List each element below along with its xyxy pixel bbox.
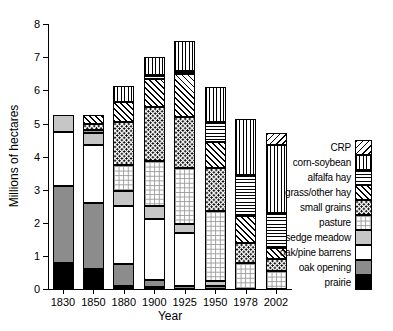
legend-swatch-grass-other-hay — [355, 185, 372, 200]
x-axis — [48, 289, 292, 290]
segment-sedge-meadow — [144, 206, 165, 219]
segment-prairie — [83, 269, 104, 289]
legend-swatch-pasture — [355, 215, 372, 230]
bar-1950 — [205, 87, 226, 289]
x-tick — [93, 290, 94, 294]
segment-oak-opening — [205, 286, 226, 289]
legend: CRPcorn-soybeanalfalfa haygrass/other ha… — [257, 140, 372, 290]
segment-small-grains — [144, 107, 165, 162]
segment-small-grains — [205, 168, 226, 211]
y-tick-label: 6 — [10, 84, 40, 96]
bar-1925 — [174, 41, 195, 289]
segment-pasture — [113, 165, 134, 191]
segment-sedge-meadow — [83, 133, 104, 145]
y-tick-label: 7 — [10, 51, 40, 63]
x-tick-label: 2002 — [256, 296, 296, 308]
legend-item: CRP — [257, 140, 372, 155]
x-tick — [246, 290, 247, 294]
y-tick-label: 5 — [10, 118, 40, 130]
y-axis — [48, 24, 49, 290]
legend-swatch-alfalfa-hay — [355, 170, 372, 185]
y-tick — [43, 157, 48, 158]
y-tick — [43, 24, 48, 25]
legend-item: oak/pine barrens — [257, 245, 372, 260]
segment-sedge-meadow — [174, 224, 195, 232]
segment-corn-soybean — [113, 86, 134, 103]
legend-swatch-oak-opening — [355, 260, 372, 275]
segment-grass-other-hay — [205, 142, 226, 168]
y-tick — [43, 57, 48, 58]
x-tick — [215, 290, 216, 294]
x-tick — [124, 290, 125, 294]
y-tick — [43, 289, 48, 290]
x-tick — [276, 290, 277, 294]
x-axis-title: Year — [48, 309, 292, 323]
y-tick-label: 4 — [10, 151, 40, 163]
segment-sedge-meadow — [113, 191, 134, 206]
y-tick — [43, 223, 48, 224]
y-tick — [43, 190, 48, 191]
segment-oak-pine-barrens — [83, 145, 104, 203]
legend-item: grass/other hay — [257, 185, 372, 200]
y-tick-label: 1 — [10, 250, 40, 262]
y-tick-label: 2 — [10, 217, 40, 229]
y-tick-label: 3 — [10, 184, 40, 196]
segment-pasture — [174, 168, 195, 224]
y-tick — [43, 90, 48, 91]
bar-1830 — [53, 115, 74, 289]
segment-grass-other-hay — [144, 79, 165, 107]
y-tick — [43, 124, 48, 125]
y-tick-label: 8 — [10, 18, 40, 30]
segment-alfalfa-hay — [235, 175, 256, 216]
segment-pasture — [205, 211, 226, 281]
legend-item: corn-soybean — [257, 155, 372, 170]
bar-1900 — [144, 57, 165, 289]
segment-oak-pine-barrens — [174, 233, 195, 286]
legend-label: corn-soybean — [257, 157, 355, 168]
segment-oak-opening — [113, 264, 134, 286]
y-tick-label: 0 — [10, 283, 40, 295]
legend-label: CRP — [257, 142, 355, 153]
y-tick — [43, 256, 48, 257]
legend-swatch-oak-pine-barrens — [355, 245, 372, 260]
legend-label: pasture — [257, 217, 355, 228]
legend-item: alfalfa hay — [257, 170, 372, 185]
segment-oak-pine-barrens — [144, 219, 165, 280]
segment-corn-soybean — [205, 87, 226, 122]
legend-label: alfalfa hay — [257, 172, 355, 183]
segment-grass-other-hay — [235, 216, 256, 242]
legend-label: small grains — [257, 202, 355, 213]
segment-sedge-meadow — [53, 115, 74, 132]
bar-1850 — [83, 115, 104, 289]
segment-small-grains — [83, 124, 104, 131]
segment-prairie — [53, 263, 74, 289]
segment-oak-pine-barrens — [53, 132, 74, 187]
legend-label: grass/other hay — [257, 187, 355, 198]
bar-1880 — [113, 86, 134, 290]
segment-grass-other-hay — [83, 115, 104, 123]
segment-oak-pine-barrens — [113, 206, 134, 264]
segment-grass-other-hay — [174, 74, 195, 117]
legend-item: pasture — [257, 215, 372, 230]
legend-label: sedge meadow — [257, 232, 355, 243]
x-tick — [63, 290, 64, 294]
segment-oak-opening — [53, 186, 74, 262]
legend-swatch-small-grains — [355, 200, 372, 215]
segment-prairie — [144, 287, 165, 289]
segment-corn-soybean — [144, 57, 165, 75]
segment-alfalfa-hay — [205, 122, 226, 142]
legend-label: prairie — [257, 277, 355, 288]
segment-corn-soybean — [235, 119, 256, 175]
x-tick — [185, 290, 186, 294]
legend-label: oak opening — [257, 262, 355, 273]
legend-item: small grains — [257, 200, 372, 215]
legend-swatch-CRP — [355, 140, 372, 155]
segment-prairie — [113, 286, 134, 289]
segment-oak-opening — [83, 203, 104, 269]
segment-corn-soybean — [174, 41, 195, 71]
segment-pasture — [235, 263, 256, 289]
legend-item: oak opening — [257, 260, 372, 275]
segment-small-grains — [174, 117, 195, 168]
segment-oak-opening — [174, 286, 195, 289]
segment-small-grains — [113, 122, 134, 165]
